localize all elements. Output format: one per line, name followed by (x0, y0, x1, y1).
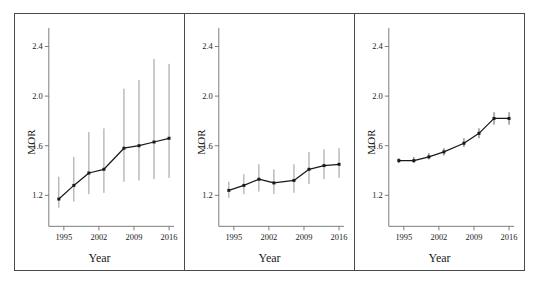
svg-text:2.4: 2.4 (202, 41, 213, 51)
svg-text:1.2: 1.2 (372, 190, 383, 200)
panel-1: 1.21.62.02.41995200220092016 MOR Year (15, 14, 184, 270)
svg-text:1.2: 1.2 (202, 190, 213, 200)
svg-text:2002: 2002 (90, 232, 107, 242)
svg-text:1995: 1995 (395, 232, 412, 242)
panel-3-plot: 1.21.62.02.41995200220092016 (355, 14, 524, 270)
panel-3: 1.21.62.02.41995200220092016 MOR Year (354, 14, 524, 270)
svg-text:2.0: 2.0 (372, 91, 383, 101)
svg-text:2016: 2016 (501, 232, 518, 242)
panel-2-inner: 1.21.62.02.41995200220092016 MOR Year (185, 14, 354, 270)
svg-text:1.2: 1.2 (32, 190, 43, 200)
panel-1-ylabel: MOR (25, 129, 37, 155)
svg-text:2009: 2009 (126, 232, 143, 242)
panel-2: 1.21.62.02.41995200220092016 MOR Year (184, 14, 354, 270)
svg-text:1995: 1995 (225, 232, 242, 242)
panel-1-plot: 1.21.62.02.41995200220092016 (15, 14, 184, 270)
svg-text:2.4: 2.4 (372, 41, 383, 51)
svg-text:2016: 2016 (161, 232, 178, 242)
figure-container: 1.21.62.02.41995200220092016 MOR Year 1.… (0, 0, 539, 297)
panel-3-xlabel: Year (355, 251, 524, 266)
panel-row: 1.21.62.02.41995200220092016 MOR Year 1.… (14, 13, 525, 271)
svg-text:1995: 1995 (55, 232, 72, 242)
panel-3-ylabel: MOR (365, 129, 377, 155)
svg-text:2002: 2002 (430, 232, 447, 242)
svg-text:2.0: 2.0 (202, 91, 213, 101)
panel-3-inner: 1.21.62.02.41995200220092016 MOR Year (355, 14, 524, 270)
panel-1-inner: 1.21.62.02.41995200220092016 MOR Year (15, 14, 184, 270)
svg-text:2009: 2009 (296, 232, 313, 242)
svg-text:2.0: 2.0 (32, 91, 43, 101)
panel-2-ylabel: MOR (195, 129, 207, 155)
svg-text:2.4: 2.4 (32, 41, 43, 51)
panel-1-xlabel: Year (15, 251, 184, 266)
panel-2-xlabel: Year (185, 251, 354, 266)
svg-text:2002: 2002 (260, 232, 277, 242)
panel-2-plot: 1.21.62.02.41995200220092016 (185, 14, 354, 270)
svg-text:2009: 2009 (466, 232, 483, 242)
svg-text:2016: 2016 (331, 232, 348, 242)
